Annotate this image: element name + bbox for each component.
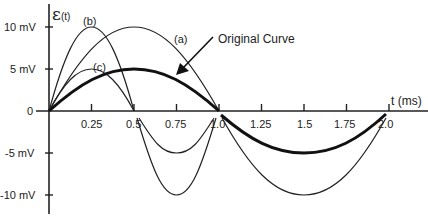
x-tick-label-1.5: 1.5 (297, 118, 312, 130)
x-ticks (92, 104, 390, 111)
x-tick-label-0.25: 0.25 (81, 118, 102, 130)
curve-a-label: (a) (174, 33, 187, 45)
y-tick-label-0: 0 (27, 105, 33, 117)
y-tick-label-5: 5 mV (10, 63, 36, 75)
y-axis-symbol: ε (52, 4, 61, 24)
x-tick-label-0.75: 0.75 (165, 118, 186, 130)
y-tick-label-10: 10 mV (4, 21, 36, 33)
y-axis-argument: (t) (61, 11, 70, 22)
x-axis-label: t (ms) (391, 94, 422, 108)
curve-b-label: (b) (83, 15, 96, 27)
y-tick-label-neg5: -5 mV (5, 147, 35, 159)
curve-c-label: (c) (93, 61, 106, 73)
original-curve-annotation: Original Curve (218, 32, 295, 46)
y-tick-label-neg10: -10 mV (0, 189, 36, 201)
annotation-arrow (183, 37, 213, 68)
x-tick-label-1.25: 1.25 (250, 118, 271, 130)
x-tick-label-1.75: 1.75 (334, 118, 355, 130)
waveform-chart: 10 mV 5 mV 0 -5 mV -10 mV 0.25 0.5 0.75 … (0, 0, 428, 216)
